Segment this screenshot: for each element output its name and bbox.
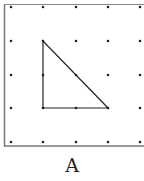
grid-dot — [139, 6, 142, 9]
grid-dot — [107, 74, 110, 77]
grid-dot — [10, 74, 13, 77]
grid-dot — [139, 74, 142, 77]
triangle-shape — [43, 41, 108, 108]
grid-dot — [107, 141, 110, 144]
grid-dot — [75, 141, 78, 144]
grid-dot — [10, 6, 13, 9]
grid-dot — [42, 6, 45, 9]
grid-dot — [107, 6, 110, 9]
grid-dot — [10, 107, 13, 110]
grid-dot — [75, 6, 78, 9]
grid-dot — [139, 40, 142, 43]
grid-dot — [42, 141, 45, 144]
frame-border — [4, 4, 144, 147]
geoboard-figure — [0, 0, 144, 150]
grid-dot — [139, 107, 142, 110]
grid-dot — [139, 141, 142, 144]
grid-dot — [10, 40, 13, 43]
figure-label: A — [0, 154, 144, 176]
grid-dot — [107, 40, 110, 43]
grid-dot — [75, 40, 78, 43]
grid-dot — [10, 141, 13, 144]
